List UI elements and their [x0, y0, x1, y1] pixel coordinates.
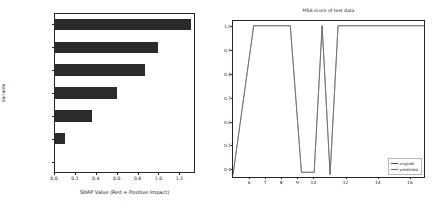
line-x-tick-label: 12 [343, 180, 349, 185]
line-y-tick [231, 98, 233, 99]
legend-line-swatch [391, 169, 398, 170]
shap-x-tick [117, 173, 118, 175]
line-y-tick-label: 0.9 [224, 47, 231, 52]
shap-bar [54, 133, 65, 144]
shap-bar [54, 87, 117, 98]
line-y-tick-label: 0.4 [224, 167, 231, 172]
shap-x-axis-title: SHAP Value (Red = Positive Impact) [54, 189, 195, 195]
shap-bar [54, 64, 145, 75]
legend-item: predicted [391, 167, 418, 172]
line-x-tick-label: 7 [264, 180, 267, 185]
legend-line-swatch [391, 163, 398, 164]
shap-bar [54, 19, 191, 30]
shap-x-tick [75, 173, 76, 175]
figure-canvas: QualityReqpTimecReworkcAQPMExperTimeDela… [0, 0, 436, 208]
shap-x-tick [96, 173, 97, 175]
line-x-tick-label: 10 [311, 180, 317, 185]
shap-x-tick [54, 173, 55, 175]
line-series-original [233, 26, 424, 175]
shap-x-tick-label: 1.2 [176, 176, 183, 181]
line-x-tick-label: 9 [296, 180, 299, 185]
msa-line-chart-panel: MSA score of test data 0.40.50.60.70.80.… [218, 0, 436, 208]
line-series-svg [233, 21, 424, 177]
shap-x-tick [179, 173, 180, 175]
legend-label: original [400, 161, 415, 166]
line-y-tick-label: 1.0 [224, 23, 231, 28]
shap-y-tick [52, 24, 54, 25]
line-y-tick [231, 145, 233, 146]
chart-legend: originalpredicted [388, 158, 422, 176]
line-y-tick [231, 122, 233, 123]
line-y-tick [231, 169, 233, 170]
line-x-tick-label: 14 [375, 180, 381, 185]
line-x-tick-label: 6 [248, 180, 251, 185]
line-y-tick-label: 0.8 [224, 71, 231, 76]
shap-y-axis-title: Variable [1, 84, 6, 103]
line-x-tick-label: 8 [280, 180, 283, 185]
line-chart-title: MSA score of test data [232, 8, 425, 13]
shap-x-tick-label: 0.6 [113, 176, 120, 181]
legend-label: predicted [400, 167, 418, 172]
shap-x-tick [158, 173, 159, 175]
shap-y-tick [52, 116, 54, 117]
shap-x-tick-label: 0.4 [92, 176, 99, 181]
line-plot-area: 0.40.50.60.70.80.91.0 678910121416 origi… [232, 20, 425, 178]
shap-y-tick [52, 47, 54, 48]
line-y-tick [231, 50, 233, 51]
line-series-predicted [233, 26, 424, 175]
shap-bar [54, 42, 158, 53]
shap-bar-chart-panel: QualityReqpTimecReworkcAQPMExperTimeDela… [0, 0, 218, 208]
shap-y-tick [52, 139, 54, 140]
line-y-tick-label: 0.5 [224, 143, 231, 148]
shap-x-tick-label: 0.8 [134, 176, 141, 181]
shap-x-tick-label: 1.0 [155, 176, 162, 181]
line-y-tick-label: 0.7 [224, 95, 231, 100]
shap-x-tick [138, 173, 139, 175]
shap-y-tick [52, 162, 54, 163]
shap-x-tick-label: 0.0 [50, 176, 57, 181]
shap-bar [54, 110, 92, 121]
shap-y-tick [52, 70, 54, 71]
line-y-tick [231, 74, 233, 75]
shap-y-tick [52, 93, 54, 94]
shap-x-tick-label: 0.2 [71, 176, 78, 181]
legend-item: original [391, 161, 418, 166]
line-y-tick-label: 0.6 [224, 119, 231, 124]
line-x-tick-label: 16 [407, 180, 413, 185]
line-y-tick [231, 26, 233, 27]
